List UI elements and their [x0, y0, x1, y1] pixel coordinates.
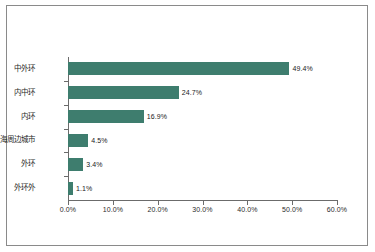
value-tick [337, 201, 338, 205]
value-tick [247, 201, 248, 205]
value-tick [203, 201, 204, 205]
bar [68, 110, 144, 123]
value-tick [113, 201, 114, 205]
value-tick-label: 0.0% [60, 206, 76, 213]
category-tick [64, 105, 68, 106]
value-tick-label: 10.0% [103, 206, 123, 213]
value-tick-label: 30.0% [192, 206, 212, 213]
value-tick-label: 20.0% [147, 206, 167, 213]
category-tick [64, 81, 68, 82]
category-label: 外环外 [14, 184, 35, 192]
category-tick [64, 152, 68, 153]
bar [68, 182, 73, 195]
bar [68, 134, 88, 147]
value-tick [158, 201, 159, 205]
category-label: 内环 [21, 113, 35, 121]
category-label: 内中环 [14, 89, 35, 97]
value-tick-label: 60.0% [327, 206, 347, 213]
bar-value-label: 49.4% [292, 65, 312, 72]
value-tick-label: 50.0% [282, 206, 302, 213]
bar-value-label: 4.5% [91, 137, 107, 144]
bar-value-label: 16.9% [147, 113, 167, 120]
category-label: 中外环 [14, 65, 35, 73]
category-tick [64, 129, 68, 130]
bar [68, 86, 179, 99]
bar-value-label: 1.1% [76, 185, 92, 192]
value-tick [292, 201, 293, 205]
bar [68, 62, 289, 75]
category-label: 外环 [21, 160, 35, 168]
category-axis-line [68, 57, 69, 201]
bar-value-label: 24.7% [182, 89, 202, 96]
chart-figure: 中外环内中环内环上海周边城市外环外环外 49.4%24.7%16.9%4.5%3… [0, 0, 375, 252]
bar-value-label: 3.4% [86, 161, 102, 168]
category-tick [64, 176, 68, 177]
category-label: 上海周边城市 [0, 136, 35, 144]
value-tick [68, 201, 69, 205]
value-tick-label: 40.0% [237, 206, 257, 213]
bar [68, 158, 83, 171]
